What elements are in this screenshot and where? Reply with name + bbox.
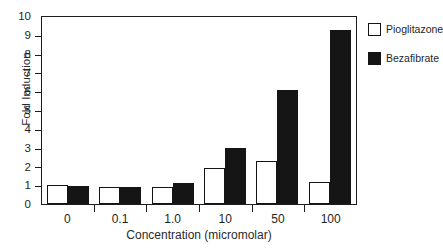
y-tick-label-5: 5 [11,105,31,117]
bar-bezafibrate-3 [225,148,246,204]
legend-item-pioglitazone: Pioglitazone [368,22,440,37]
x-tick-mark-2 [199,205,200,212]
x-tick-label-0: 0 [39,212,95,226]
bar-pioglitazone-5 [309,182,330,204]
y-tick-label-7: 7 [11,68,31,80]
x-tick-mark-1 [146,205,147,212]
x-tick-label-2: 1.0 [145,212,201,226]
bars-container [42,17,356,204]
bar-group-0 [42,17,94,204]
y-tick-label-8: 8 [11,49,31,61]
bar-group-4 [251,17,303,204]
legend-item-bezafibrate: Bezafibrate [368,51,440,66]
bar-bezafibrate-1 [120,187,141,204]
y-tick-label-0: 0 [11,199,31,211]
x-tick-mark-4 [304,205,305,212]
x-tick-label-1: 0.1 [92,212,148,226]
x-tick-label-5: 100 [303,212,359,226]
x-tick-mark-0 [94,205,95,212]
bar-bezafibrate-2 [173,183,194,204]
bar-bezafibrate-4 [277,90,298,204]
bar-bezafibrate-5 [330,30,351,204]
bar-pioglitazone-0 [47,185,68,204]
y-tick-label-9: 9 [11,30,31,42]
bar-pioglitazone-2 [152,187,173,204]
bar-bezafibrate-0 [68,186,89,204]
chart-legend: Pioglitazone Bezafibrate [368,22,440,80]
y-tick-label-1: 1 [11,180,31,192]
bar-pioglitazone-1 [99,187,120,204]
x-tick-label-4: 50 [250,212,306,226]
bar-pioglitazone-4 [256,161,277,204]
legend-swatch-filled-square-icon [368,52,381,65]
bar-group-1 [94,17,146,204]
legend-swatch-open-square-icon [368,23,381,36]
plot-area [41,16,357,205]
bar-group-3 [199,17,251,204]
x-axis-title: Concentration (micromolar) [41,228,357,242]
y-tick-label-6: 6 [11,86,31,98]
bar-group-2 [147,17,199,204]
y-tick-label-2: 2 [11,162,31,174]
y-tick-label-3: 3 [11,143,31,155]
x-tick-mark-3 [252,205,253,212]
legend-label-bezafibrate: Bezafibrate [386,53,439,64]
y-tick-label-4: 4 [11,124,31,136]
bar-group-5 [304,17,356,204]
x-tick-label-3: 10 [197,212,253,226]
bar-pioglitazone-3 [204,168,225,204]
y-tick-label-10: 10 [6,11,31,23]
legend-label-pioglitazone: Pioglitazone [386,24,443,35]
